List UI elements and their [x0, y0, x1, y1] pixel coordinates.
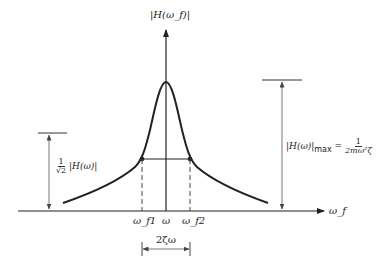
y-axis-label: |H(ω_f)| — [150, 10, 190, 20]
half-power-label: 1 √2 |H(ω)| — [56, 158, 97, 175]
tick-label-omega-f1: ω_f1 — [133, 216, 156, 226]
max-label-lhs: |H(ω)| — [286, 141, 314, 151]
max-label-denominator: 2mω²ζ — [345, 147, 372, 155]
x-axis-label: ω_f — [329, 206, 346, 216]
tick-label-omega: ω — [162, 216, 170, 226]
tick-label-omega-f2: ω_f2 — [182, 216, 205, 226]
max-label: |H(ω)|max = 1 2mω²ζ — [286, 138, 372, 155]
half-power-denominator: √2 — [56, 167, 66, 175]
bandwidth-label: 2ζω — [156, 235, 176, 245]
max-label-sub: max — [314, 145, 331, 154]
diagram-canvas — [0, 0, 389, 272]
half-power-text: |H(ω)| — [69, 161, 97, 171]
max-label-equals: = — [335, 141, 343, 151]
